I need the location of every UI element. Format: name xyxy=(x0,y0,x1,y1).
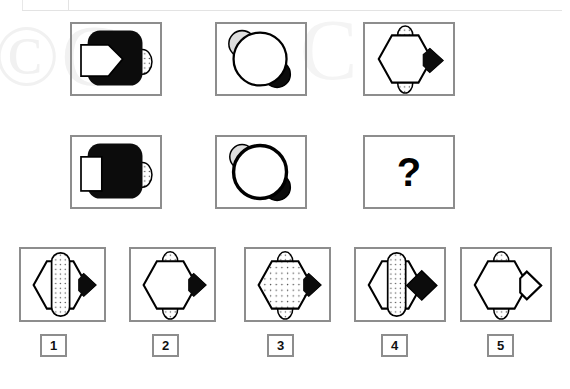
option-label-4[interactable]: 4 xyxy=(381,334,408,357)
option-label-3[interactable]: 3 xyxy=(267,334,294,357)
matrix-cell-r2c1 xyxy=(70,135,162,209)
diamond-white-tip-icon xyxy=(520,272,541,299)
question-mark: ? xyxy=(365,137,453,207)
circle-white-thick-outline-icon xyxy=(234,146,287,199)
matrix-cell-r2c2 xyxy=(215,135,307,209)
figure-option-1 xyxy=(21,249,104,320)
figure-r2c1 xyxy=(72,137,160,207)
option-3[interactable] xyxy=(244,247,331,322)
figure-r1c1 xyxy=(72,24,160,94)
option-label-5[interactable]: 5 xyxy=(487,334,514,357)
capsule-dotted-tall-icon xyxy=(52,253,70,316)
capsule-dotted-tall-icon xyxy=(388,253,406,316)
diamond-black-tip-icon xyxy=(303,274,321,297)
figure-r1c2 xyxy=(217,24,305,94)
figure-r2c2 xyxy=(217,137,305,207)
option-1[interactable] xyxy=(19,247,106,322)
figure-option-4 xyxy=(356,249,444,320)
watermark-text-secondary: C xyxy=(300,0,357,100)
figure-option-3 xyxy=(246,249,329,320)
matrix-cell-r1c2 xyxy=(215,22,307,96)
option-5[interactable] xyxy=(460,247,552,322)
diamond-black-tip-icon xyxy=(188,274,206,297)
figure-option-5 xyxy=(462,249,550,320)
option-label-2[interactable]: 2 xyxy=(152,334,179,357)
figure-r1c3 xyxy=(365,24,453,94)
circle-white-outline-icon xyxy=(234,33,287,86)
matrix-cell-r1c1 xyxy=(70,22,162,96)
rectangle-white-icon xyxy=(81,157,102,191)
figure-option-2 xyxy=(131,249,214,320)
option-2[interactable] xyxy=(129,247,216,322)
matrix-cell-r2c3-answer[interactable]: ? xyxy=(363,135,455,209)
option-label-1[interactable]: 1 xyxy=(40,334,67,357)
option-4[interactable] xyxy=(354,247,446,322)
diamond-black-tip-icon xyxy=(78,274,96,297)
matrix-cell-r1c3 xyxy=(363,22,455,96)
